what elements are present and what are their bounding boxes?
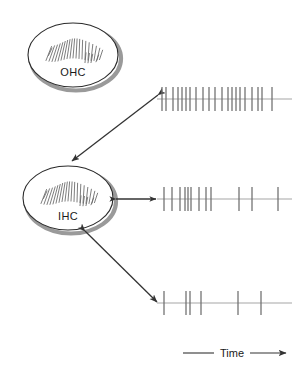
hair-cell-spike-train-figure: OHC [0, 0, 305, 386]
arrow-to-low-rate-train [85, 231, 157, 302]
spike-train-row-1 [157, 187, 292, 211]
time-axis: Time [183, 347, 286, 359]
spike-train-row-0 [157, 87, 292, 111]
spike-train-row-2 [157, 291, 292, 315]
arrow-to-high-rate-train [72, 95, 158, 161]
ohc-label: OHC [60, 66, 85, 78]
inner-hair-cell: IHC [23, 166, 116, 234]
spike-train-group [157, 87, 292, 315]
outer-hair-cell: OHC [28, 23, 121, 91]
figure-canvas: OHC [0, 0, 305, 386]
time-axis-label: Time [220, 347, 244, 359]
ihc-label: IHC [58, 210, 78, 222]
